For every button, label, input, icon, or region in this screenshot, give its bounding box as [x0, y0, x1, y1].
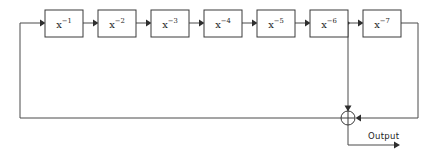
summing-junction — [341, 111, 355, 125]
block-x-inv-1[interactable]: x−1 — [45, 10, 83, 37]
block-x-inv-6[interactable]: x−6 — [310, 10, 348, 37]
block-exponent-3: −3 — [168, 17, 178, 25]
output-label: Output — [368, 131, 400, 141]
arrowhead-output — [394, 142, 400, 149]
block-exponent-5: −5 — [274, 17, 284, 25]
block-x-inv-2[interactable]: x−2 — [98, 10, 136, 37]
block-x-inv-5[interactable]: x−5 — [257, 10, 295, 37]
block-x-inv-4[interactable]: x−4 — [204, 10, 242, 37]
block-x-inv-3[interactable]: x−3 — [151, 10, 189, 37]
block7-return-wire — [356, 23, 419, 122]
arrowhead-into-junction-right — [356, 115, 362, 122]
block-exponent-7: −7 — [380, 17, 390, 25]
block-exponent-1: −1 — [62, 17, 72, 25]
diagram-svg: x−1 x−2 x−3 x−4 x−5 x−6 x−7 Output — [0, 0, 431, 155]
block-exponent-6: −6 — [327, 17, 337, 25]
block-x-inv-7[interactable]: x−7 — [363, 10, 401, 37]
block-exponent-4: −4 — [221, 17, 231, 25]
block-diagram-canvas: x−1 x−2 x−3 x−4 x−5 x−6 x−7 Output — [0, 0, 431, 155]
block-exponent-2: −2 — [115, 17, 125, 25]
